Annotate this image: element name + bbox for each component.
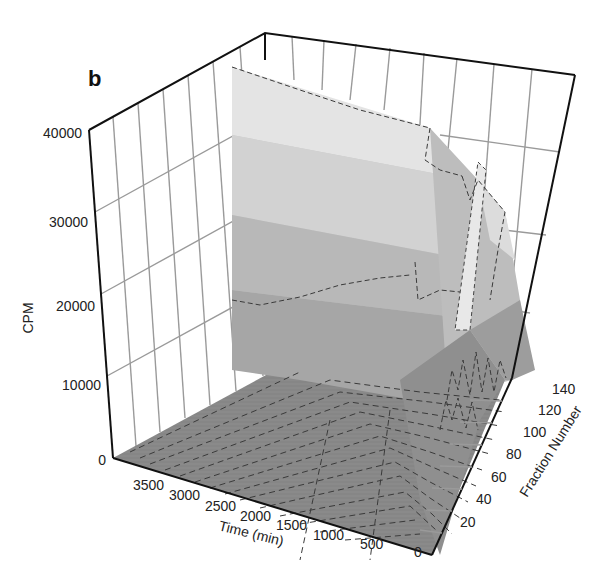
z-tick: 0 xyxy=(98,452,106,468)
y-tick: 80 xyxy=(506,446,522,462)
y-tick: 100 xyxy=(523,424,547,440)
z-tick: 40000 xyxy=(43,125,82,141)
z-axis-label: CPM xyxy=(20,302,36,333)
x-tick: 2000 xyxy=(240,508,271,524)
y-tick: 120 xyxy=(538,402,562,418)
x-tick: 0 xyxy=(414,544,422,560)
surface-plot-3d: b xyxy=(0,0,608,578)
y-tick: 20 xyxy=(460,514,476,530)
x-tick: 1000 xyxy=(313,527,344,543)
x-tick: 3500 xyxy=(133,477,164,493)
z-tick: 10000 xyxy=(62,377,101,393)
panel-label: b xyxy=(88,66,101,91)
x-tick: 3000 xyxy=(169,487,200,503)
y-tick: 60 xyxy=(491,469,507,485)
y-tick: 40 xyxy=(476,491,492,507)
x-tick: 2500 xyxy=(205,498,236,514)
x-tick: 1500 xyxy=(276,517,307,533)
x-tick: 500 xyxy=(360,536,384,552)
z-tick: 20000 xyxy=(56,298,95,314)
z-tick: 30000 xyxy=(49,214,88,230)
y-tick: 140 xyxy=(552,381,576,397)
